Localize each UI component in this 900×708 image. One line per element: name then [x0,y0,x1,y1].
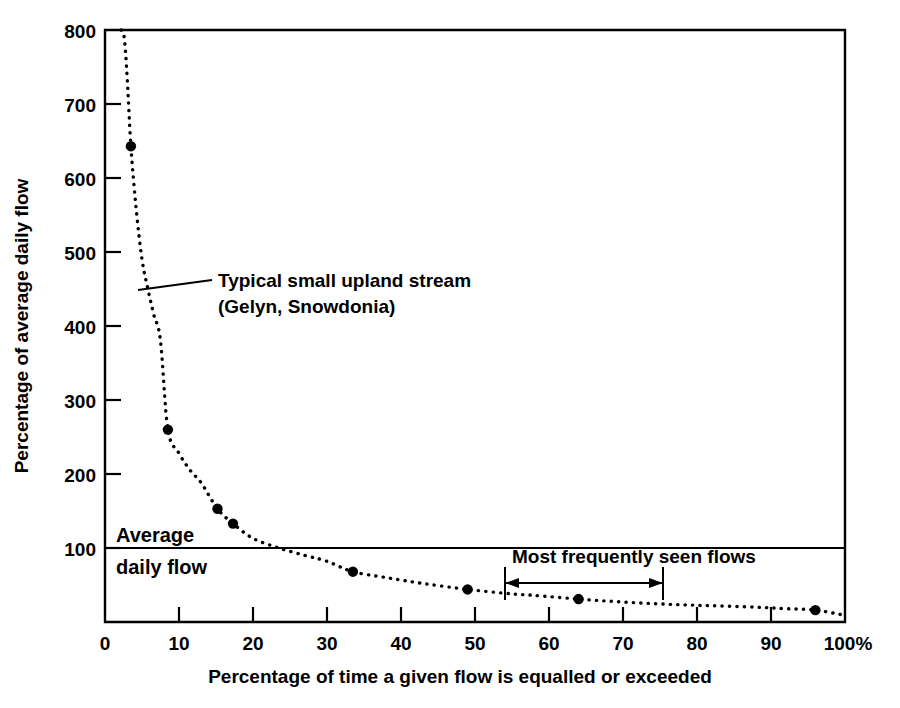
x-tick-label-0: 0 [100,633,111,654]
y-tick-label-100: 100 [64,539,96,560]
average-label-line1: Average [116,524,194,546]
x-tick-label-20: 20 [242,633,263,654]
x-axis-ticks [179,607,771,622]
data-point-marker [810,605,820,615]
curve-annotation-leader [138,280,212,290]
x-tick-label-90: 90 [760,633,781,654]
x-tick-label-100: 100% [824,633,873,654]
y-tick-label-600: 600 [64,169,96,190]
x-axis-title: Percentage of time a given flow is equal… [208,666,712,687]
average-daily-flow-label: Average daily flow [116,524,208,578]
y-tick-label-300: 300 [64,391,96,412]
curve-label-line2: (Gelyn, Snowdonia) [218,296,395,317]
data-point-marker [462,584,472,594]
x-tick-label-70: 70 [612,633,633,654]
data-point-marker [348,566,358,576]
y-tick-label-800: 800 [64,21,96,42]
x-tick-label-50: 50 [464,633,485,654]
frequent-flows-label: Most frequently seen flows [512,546,756,567]
y-tick-label-400: 400 [64,317,96,338]
data-point-marker [228,518,238,528]
flow-duration-curve-chart: 100 200 300 400 500 600 700 800 Percenta… [0,0,900,708]
y-axis-title-group: Percentage of average daily flow [11,178,32,473]
curve-annotation-text: Typical small upland stream (Gelyn, Snow… [218,270,471,317]
chart-figure: 100 200 300 400 500 600 700 800 Percenta… [0,0,900,708]
y-tick-label-200: 200 [64,465,96,486]
x-tick-label-30: 30 [316,633,337,654]
y-tick-label-500: 500 [64,243,96,264]
data-point-markers [126,141,821,615]
plot-frame [105,30,845,622]
y-axis-ticks [105,104,121,548]
y-tick-label-700: 700 [64,95,96,116]
y-axis-tick-labels: 100 200 300 400 500 600 700 800 [64,21,96,560]
data-point-marker [163,424,173,434]
average-label-line2: daily flow [116,556,208,578]
data-point-marker [573,594,583,604]
arrow-head-left [505,578,519,588]
x-axis-title-group: Percentage of time a given flow is equal… [208,666,712,687]
data-point-marker [212,504,222,514]
y-axis-title: Percentage of average daily flow [11,178,32,473]
x-tick-label-10: 10 [168,633,189,654]
frequent-flows-span: Most frequently seen flows [505,546,756,600]
curve-label-line1: Typical small upland stream [218,270,471,291]
x-tick-label-60: 60 [538,633,559,654]
x-tick-label-40: 40 [390,633,411,654]
x-tick-label-80: 80 [686,633,707,654]
data-point-marker [126,141,136,151]
arrow-head-right [649,578,663,588]
x-axis-tick-labels: 0 10 20 30 40 50 60 70 80 90 100% [100,633,873,654]
